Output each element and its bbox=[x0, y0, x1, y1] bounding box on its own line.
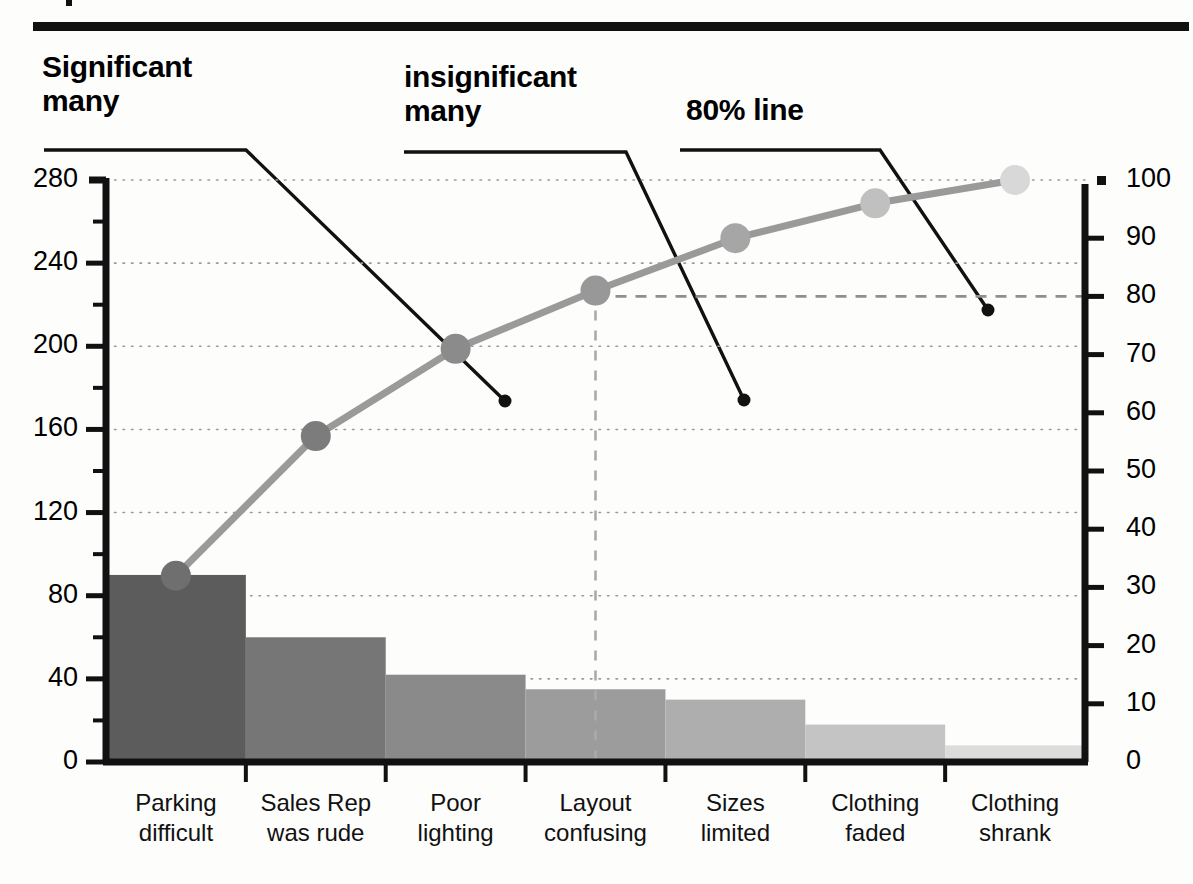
pareto-chart-page: Significant many insignificant many 80% … bbox=[0, 0, 1193, 884]
cumulative-marker bbox=[441, 334, 471, 364]
y-axis-left-tick-label: 120 bbox=[0, 496, 78, 527]
x-axis-category-label: Poor lighting bbox=[386, 788, 526, 848]
y-axis-right-tick-label: 20 bbox=[1126, 629, 1156, 660]
bar bbox=[386, 675, 526, 762]
right-axis-top-mark bbox=[1097, 176, 1106, 185]
cumulative-marker bbox=[161, 561, 191, 591]
y-axis-right-tick-label: 50 bbox=[1126, 454, 1156, 485]
x-axis-category-label: Parking difficult bbox=[106, 788, 246, 848]
cumulative-marker bbox=[581, 276, 611, 306]
y-axis-left-tick-label: 200 bbox=[0, 329, 78, 360]
leader-dot-insignificant-many bbox=[738, 394, 751, 407]
cumulative-marker bbox=[1000, 165, 1030, 195]
y-axis-left-tick-label: 80 bbox=[0, 579, 78, 610]
pareto-chart-graphic bbox=[0, 0, 1193, 884]
cumulative-marker bbox=[860, 188, 890, 218]
y-axis-right-tick-label: 30 bbox=[1126, 570, 1156, 601]
bar bbox=[106, 575, 246, 762]
y-axis-right-tick-label: 90 bbox=[1126, 221, 1156, 252]
x-axis-category-label: Sizes limited bbox=[665, 788, 805, 848]
y-axis-right-tick-label: 100 bbox=[1126, 163, 1171, 194]
leader-dot-eighty-percent-line bbox=[982, 304, 995, 317]
x-axis-category-label: Layout confusing bbox=[526, 788, 666, 848]
y-axis-left-tick-label: 240 bbox=[0, 246, 78, 277]
y-axis-right-tick-label: 60 bbox=[1126, 396, 1156, 427]
gridlines bbox=[106, 180, 1085, 679]
y-axis-left-tick-label: 0 bbox=[0, 745, 78, 776]
y-axis-right-tick-label: 40 bbox=[1126, 512, 1156, 543]
cumulative-marker bbox=[301, 421, 331, 451]
y-axis-right-tick-label: 70 bbox=[1126, 338, 1156, 369]
bar bbox=[805, 725, 945, 762]
x-axis-category-label: Sales Rep was rude bbox=[246, 788, 386, 848]
annotation-leader-lines bbox=[44, 150, 995, 408]
x-axis-category-label: Clothing faded bbox=[805, 788, 945, 848]
bar bbox=[665, 700, 805, 762]
bar bbox=[246, 637, 386, 762]
y-axis-right-tick-label: 10 bbox=[1126, 687, 1156, 718]
x-axis-category-label: Clothing shrank bbox=[945, 788, 1085, 848]
y-axis-left-tick-label: 40 bbox=[0, 662, 78, 693]
y-axis-left-tick-label: 160 bbox=[0, 412, 78, 443]
y-axis-right-tick-label: 80 bbox=[1126, 279, 1156, 310]
leader-dot-significant-many bbox=[499, 395, 512, 408]
y-axis-right-tick-label: 0 bbox=[1126, 745, 1141, 776]
y-axis-left-tick-label: 280 bbox=[0, 163, 78, 194]
reference-lines bbox=[596, 291, 1086, 762]
cumulative-marker bbox=[720, 223, 750, 253]
